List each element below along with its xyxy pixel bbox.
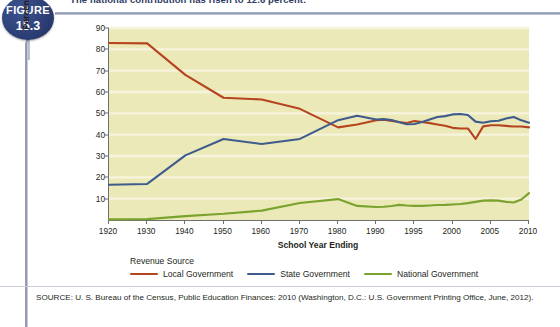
series-line-state-government [109,114,529,185]
y-tick-label: 30 [75,151,105,161]
legend-items: Local GovernmentState GovernmentNational… [130,269,530,279]
y-tick-label: 90 [75,23,105,33]
x-tick-label: 1990 [355,226,395,236]
x-axis-ticklabels: 1920193019401950196019701980199019952000… [108,220,528,242]
x-tick-mark [375,220,376,224]
x-tick-label: 2010 [508,226,548,236]
line-chart: Percentage of Total Revenues 10203040506… [55,18,555,258]
top-divider [55,12,560,15]
chart-series-svg [109,28,529,220]
y-tick-label: 40 [75,130,105,140]
legend-item-national-government[interactable]: National Government [364,269,478,279]
x-tick-mark [299,220,300,224]
y-tick-label: 10 [75,194,105,204]
x-tick-mark [146,220,147,224]
chart-legend: Revenue Source Local GovernmentState Gov… [130,256,530,279]
x-tick-label: 1930 [126,226,166,236]
legend-swatch-icon [364,273,392,276]
x-tick-label: 1960 [241,226,281,236]
x-tick-mark [337,220,338,224]
y-axis-title: Percentage of Total Revenues [21,0,31,42]
y-tick-label: 20 [75,172,105,182]
legend-item-state-government[interactable]: State Government [247,269,350,279]
y-tick-label: 60 [75,87,105,97]
x-tick-mark [490,220,491,224]
x-tick-mark [108,220,109,224]
legend-swatch-icon [130,273,158,276]
x-tick-label: 2005 [470,226,510,236]
x-tick-mark [261,220,262,224]
figure-caption: The national contribution has risen to 1… [70,0,540,10]
x-tick-label: 1980 [317,226,357,236]
y-tick-label: 70 [75,66,105,76]
x-tick-label: 2000 [432,226,472,236]
series-line-national-government [109,193,529,219]
x-tick-mark [223,220,224,224]
x-tick-label: 1995 [393,226,433,236]
legend-swatch-icon [247,273,275,276]
plot-area [108,28,529,221]
legend-label: State Government [280,269,350,279]
legend-item-local-government[interactable]: Local Government [130,269,233,279]
x-tick-label: 1940 [164,226,204,236]
x-tick-mark [184,220,185,224]
legend-label: Local Government [163,269,233,279]
x-tick-label: 1920 [88,226,128,236]
x-tick-mark [452,220,453,224]
legend-label: National Government [397,269,478,279]
x-tick-mark [528,220,529,224]
x-tick-label: 1970 [279,226,319,236]
bottom-divider [0,286,560,287]
left-divider [25,42,28,327]
y-axis-ticklabels: 102030405060708090 [69,28,105,220]
legend-title: Revenue Source [130,256,530,266]
x-tick-label: 1950 [203,226,243,236]
x-axis-title: School Year Ending [108,240,528,250]
y-tick-label: 50 [75,108,105,118]
x-tick-mark [413,220,414,224]
source-note: SOURCE: U. S. Bureau of the Census, Publ… [36,292,541,304]
y-tick-label: 80 [75,44,105,54]
